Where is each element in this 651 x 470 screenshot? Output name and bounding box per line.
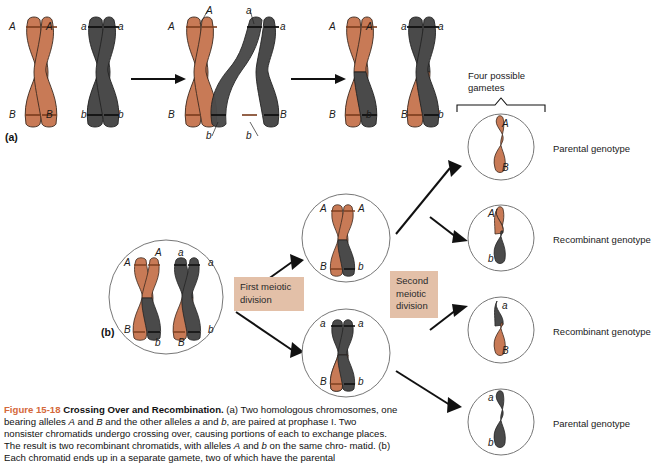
daughter-cell-lower: [298, 305, 394, 401]
gamete-1-cell: [465, 110, 537, 184]
panel-a-step1-label-bottom-2: B: [46, 110, 53, 120]
gamete-2-genotype: Recombinant genotype: [553, 234, 651, 245]
panel-a-step3-label-top-2: A: [366, 22, 373, 32]
panel-a-step1-label-bottom-4: b: [118, 110, 124, 120]
second-division-arrow-to-gamete3-icon: [430, 300, 470, 336]
panel-a-step1-label-bottom-1: B: [9, 110, 16, 120]
second-division-arrow-to-gamete2-icon: [430, 213, 470, 249]
gamete-1-top-allele: A: [502, 119, 509, 129]
daughter-upper-label-bottom-1: B: [320, 262, 327, 272]
gamete-4-genotype: Parental genotype: [553, 418, 630, 429]
panel-a-step2-label-bottom-1: B: [168, 110, 175, 120]
panel-a-step2-label-bottom-3: b: [246, 131, 252, 141]
panel-a-step1-label-top-2: A: [46, 22, 53, 32]
gamete-2-bottom-allele: b: [488, 254, 494, 264]
daughter-lower-label-top-2: a: [358, 319, 364, 329]
daughter-lower-label-bottom-2: b: [358, 377, 364, 387]
panel-b-parent-label-top-1: A: [124, 258, 131, 268]
gamete-3-top-allele: a: [502, 301, 508, 311]
panel-b-parent-label-bottom-2: b: [155, 338, 161, 348]
panel-a-step3-label-top-3: a: [401, 22, 407, 32]
gamete-1-bottom-allele: B: [502, 163, 509, 173]
panel-a-step2-label-top-2: A: [206, 6, 213, 16]
panel-a-step3-label-top-4: a: [438, 22, 444, 32]
panel-b-parent-label-bottom-3: B: [178, 338, 185, 348]
daughter-lower-label-bottom-1: B: [320, 377, 327, 387]
gamete-3-genotype: Recombinant genotype: [553, 326, 651, 337]
panel-b-parent-label-bottom-4: b: [208, 325, 214, 335]
gamete-2-cell: [465, 201, 537, 275]
panel-b-parent-cell: [96, 238, 236, 356]
panel-a-step3-label-bottom-3: B: [401, 110, 408, 120]
panel-b-parent-label-top-4: a: [208, 258, 214, 268]
first-meiotic-division-label: First meiotic division: [234, 277, 304, 311]
panel-a-tag: (a): [5, 131, 18, 143]
panel-a-step3-label-bottom-4: b: [438, 110, 444, 120]
panel-a-step2-label-top-3: a: [246, 6, 252, 16]
panel-a-step2-label-bottom-4: B: [280, 110, 287, 120]
gamete-4-top-allele: a: [488, 393, 494, 403]
second-division-arrows-lower-icon: [392, 365, 464, 421]
panel-a-step2-label-bottom-2: b: [206, 131, 212, 141]
panel-a-step1-label-top-1: A: [9, 22, 16, 32]
daughter-lower-label-top-1: a: [320, 319, 326, 329]
panel-a-step1-label-top-4: a: [118, 22, 124, 32]
figure-number: Figure 15-18: [4, 404, 61, 415]
panel-a-step2-label-top-1: A: [168, 22, 175, 32]
gamete-3-bottom-allele: B: [502, 346, 509, 356]
panel-a-step3-label-bottom-2: b: [366, 110, 372, 120]
daughter-cell-upper: [298, 190, 394, 286]
panel-b-tag: (b): [101, 326, 114, 338]
daughter-upper-label-top-2: A: [358, 204, 365, 214]
daughter-upper-label-top-1: A: [320, 204, 327, 214]
gamete-4-cell: [465, 385, 537, 459]
panel-b-parent-label-top-2: A: [155, 248, 162, 258]
panel-a-step3-label-top-1: A: [329, 22, 336, 32]
gamete-2-top-allele: A: [488, 209, 495, 219]
four-possible-gametes-label: Four possible gametes: [468, 70, 525, 94]
figure-caption: Figure 15-18 Crossing Over and Recombina…: [4, 404, 398, 464]
gamete-4-bottom-allele: b: [488, 438, 494, 448]
figure-title: Crossing Over and Recombination.: [63, 404, 223, 415]
panel-b-parent-label-top-3: a: [178, 248, 184, 258]
panel-a-step3-label-bottom-1: B: [329, 110, 336, 120]
panel-b-parent-label-bottom-1: B: [124, 325, 131, 335]
panel-a-step1-label-top-3: a: [81, 22, 87, 32]
panel-a-step1-label-bottom-3: b: [81, 110, 87, 120]
daughter-upper-label-bottom-2: b: [358, 262, 364, 272]
gamete-3-cell: [465, 293, 537, 367]
panel-a-step2-label-top-4: a: [280, 22, 286, 32]
gamete-1-genotype: Parental genotype: [553, 143, 630, 154]
